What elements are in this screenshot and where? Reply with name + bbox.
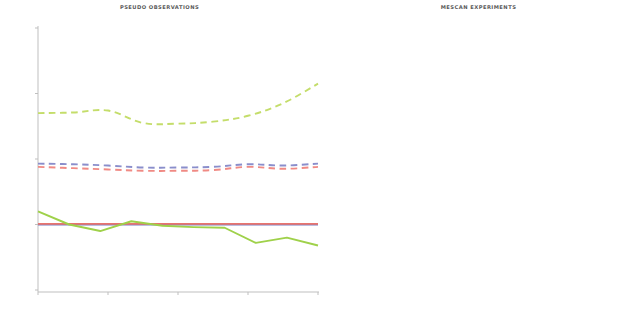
panel-right-title: MESCAN EXPERIMENTS (319, 4, 638, 10)
chart-panel-right: MESCAN EXPERIMENTS (319, 0, 638, 329)
series-line-alphaall-dashed (38, 164, 318, 168)
series-line-alpha5-dashed (38, 167, 318, 171)
chart-panel-left: PSEUDO OBSERVATIONS (0, 0, 319, 329)
figure-container: PSEUDO OBSERVATIONS MESCAN EXPERIMENTS (0, 0, 638, 329)
series-line-astro-dashed (38, 84, 318, 125)
series-line-astro-solid (38, 211, 318, 245)
plot-area-left (0, 0, 319, 329)
axis-spines (38, 26, 319, 292)
